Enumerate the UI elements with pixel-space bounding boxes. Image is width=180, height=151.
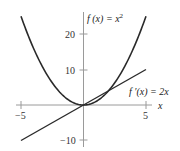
y-tick-label-20: 20 [65, 29, 75, 40]
chart: −5 5 20 10 −10 x f (x) = x2 f ′(x) = 2x [0, 0, 180, 151]
y-tick-label-neg10: −10 [60, 135, 76, 146]
x-axis-label: x [157, 100, 163, 111]
function-label: f (x) = x2 [87, 12, 124, 25]
y-tick-label-10: 10 [65, 65, 75, 76]
x-tick-label-5: 5 [143, 110, 148, 121]
x-tick-label-neg5: −5 [15, 110, 26, 121]
derivative-label: f ′(x) = 2x [129, 86, 169, 98]
